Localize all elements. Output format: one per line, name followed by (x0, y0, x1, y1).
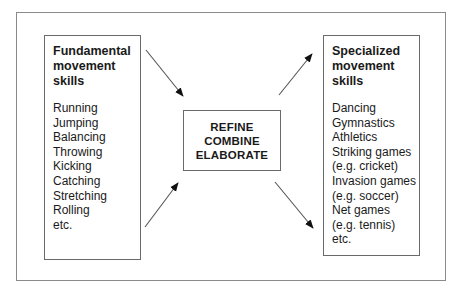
arrow-center-to-right-top-icon (279, 54, 312, 95)
arrow-left-top-to-center-icon (146, 50, 183, 96)
arrows-layer (0, 0, 463, 295)
arrow-left-bottom-to-center-icon (145, 183, 178, 227)
arrow-center-to-right-bottom-icon (275, 182, 313, 228)
